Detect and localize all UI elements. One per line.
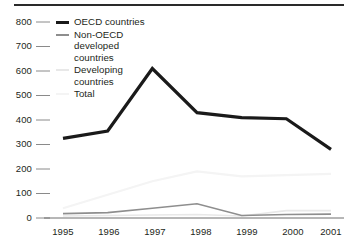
legend-item-developing-countries: Developing countries — [56, 64, 176, 87]
chart-legend: OECD countries Non-OECD developed countr… — [56, 16, 176, 101]
legend-item-non-oecd-developed-countries: Non-OECD developed countries — [56, 29, 176, 63]
chart-figure: 800 700 600 500 400 300 200 100 0 1995 1… — [0, 0, 346, 245]
legend-item-total: Total — [56, 88, 176, 100]
legend-item-label: Non-OECD developed countries — [74, 29, 123, 63]
legend-item-oecd-countries: OECD countries — [56, 16, 176, 28]
legend-item-label: Total — [74, 88, 95, 99]
series-line — [63, 171, 331, 208]
legend-swatch-icon — [56, 64, 69, 76]
legend-item-label: Developing countries — [74, 64, 123, 87]
legend-swatch-icon — [56, 29, 69, 41]
legend-swatch-icon — [56, 88, 69, 100]
legend-swatch-icon — [56, 16, 69, 28]
legend-item-label: OECD countries — [74, 16, 145, 27]
